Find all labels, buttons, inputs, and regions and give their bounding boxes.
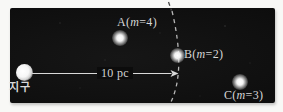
star-a-label: A(m=4) xyxy=(106,16,168,28)
star-a-label-suffix: =4) xyxy=(139,15,157,29)
star-b-label: B(m=2) xyxy=(184,48,223,60)
star-a-label-prefix: A( xyxy=(117,15,130,29)
star-c-label-prefix: C( xyxy=(224,88,237,102)
distance-label: 10 pc xyxy=(97,67,133,79)
earth-dot xyxy=(16,64,33,81)
star-b-label-prefix: B( xyxy=(184,47,197,61)
star-c-label-suffix: =3) xyxy=(246,88,264,102)
star-b-dot xyxy=(170,48,185,63)
star-c-label-variable: m xyxy=(237,88,246,102)
star-b-label-suffix: =2) xyxy=(206,47,224,61)
star-a-dot xyxy=(112,30,128,46)
star-c-label: C(m=3) xyxy=(224,89,263,101)
star-a-label-variable: m xyxy=(130,15,139,29)
astronomy-figure: A(m=4) B(m=2) C(m=3) 10 pc 지구 xyxy=(0,0,283,112)
earth-label: 지구 xyxy=(9,81,30,93)
star-b-label-variable: m xyxy=(197,47,206,61)
